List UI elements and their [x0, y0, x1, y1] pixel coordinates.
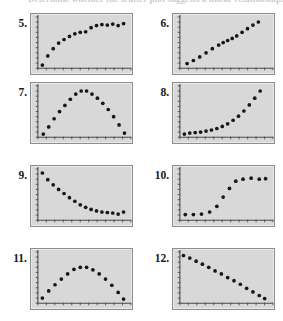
scatter-plot-12[interactable]	[172, 248, 275, 310]
scatter-plot-6-svg	[173, 14, 274, 74]
scatter-plot-5[interactable]	[30, 13, 133, 75]
problem-number-11: 11.	[0, 252, 27, 264]
scatter-plot-5-svg	[31, 14, 132, 74]
problem-number-8: 8.	[142, 86, 169, 98]
problem-9: 9.	[0, 161, 141, 229]
header-text: Determine whether the scatter plot sugge…	[28, 0, 283, 4]
problem-number-12: 12.	[142, 252, 169, 264]
cut-off-header: Determine whether the scatter plot sugge…	[0, 0, 283, 9]
scatter-plot-7[interactable]	[30, 82, 133, 144]
textbook-page: Determine whether the scatter plot sugge…	[0, 0, 283, 321]
problem-number-7: 7.	[0, 86, 27, 98]
scatter-plot-11-svg	[31, 249, 132, 309]
problem-11: 11.	[0, 244, 141, 312]
scatter-plot-8[interactable]	[172, 82, 275, 144]
scatter-plot-9-svg	[31, 166, 132, 226]
problem-10: 10.	[142, 161, 283, 229]
scatter-plot-12-svg	[173, 249, 274, 309]
problem-number-10: 10.	[142, 169, 169, 181]
scatter-plot-7-svg	[31, 83, 132, 143]
problem-number-6: 6.	[142, 17, 169, 29]
scatter-plot-11[interactable]	[30, 248, 133, 310]
problem-7: 7.	[0, 78, 141, 146]
problem-5: 5.	[0, 9, 141, 77]
problem-6: 6.	[142, 9, 283, 77]
problem-12: 12.	[142, 244, 283, 312]
scatter-plot-9[interactable]	[30, 165, 133, 227]
problem-8: 8.	[142, 78, 283, 146]
problem-grid: 5. 6. 7. 8. 9.	[0, 9, 283, 321]
problem-number-5: 5.	[0, 17, 27, 29]
scatter-plot-8-svg	[173, 83, 274, 143]
problem-number-9: 9.	[0, 169, 27, 181]
scatter-plot-10[interactable]	[172, 165, 275, 227]
scatter-plot-10-svg	[173, 166, 274, 226]
scatter-plot-6[interactable]	[172, 13, 275, 75]
